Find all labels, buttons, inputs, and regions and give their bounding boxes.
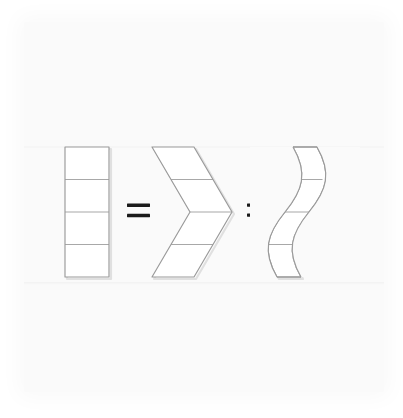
shape-chevron — [152, 147, 234, 279]
figures-svg — [0, 0, 403, 418]
diagram-root: Equal-length shapes comparison straight … — [0, 0, 403, 418]
equals-sign-1 — [127, 204, 150, 218]
shape-straight-bar — [65, 147, 111, 279]
shape-s-curve — [250, 147, 360, 279]
